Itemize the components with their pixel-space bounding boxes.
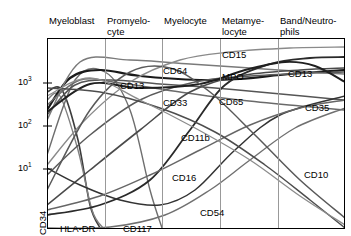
tick-exponent: 2	[28, 118, 32, 125]
stage-header-band_neutrophil: Band/Neutro- phils	[280, 16, 337, 37]
marker-label-cd54: CD54	[200, 207, 224, 218]
marker-label-cd64: CD64	[163, 65, 187, 76]
marker-label-cd11b: CD11b	[181, 132, 210, 143]
stage-header-myeloblast: Myeloblast	[49, 16, 94, 27]
marker-label-cd13: CD13	[288, 68, 312, 79]
y-tick-label-1000: 103	[18, 77, 32, 87]
tick-mantissa: 10	[18, 120, 28, 130]
stage-header-promyelocyte: Promyelo- cyte	[107, 16, 150, 37]
curve-cd54	[47, 96, 345, 205]
antigen-expression-figure: MyeloblastPromyelo- cyteMyelocyteMetamye…	[0, 0, 351, 236]
stage-header-myelocyte: Myelocyte	[164, 16, 207, 27]
marker-label-hla-dr: HLA-DR	[60, 223, 95, 234]
tick-mantissa: 10	[18, 77, 28, 87]
marker-label-cd15: CD15	[222, 49, 246, 60]
marker-label-mpo: MPO	[222, 71, 244, 82]
marker-label-cd65: CD65	[219, 96, 243, 107]
y-tick-label-100: 102	[18, 120, 32, 130]
marker-label-cd117: CD117	[123, 223, 152, 234]
stage-header-metamyelocyte: Metamye- locyte	[222, 16, 264, 37]
marker-label-cd13: CD13	[120, 80, 144, 91]
tick-exponent: 1	[28, 161, 32, 168]
tick-mantissa: 10	[18, 163, 28, 173]
marker-label-cd34: CD34	[37, 211, 48, 235]
marker-label-cd35: CD35	[305, 102, 329, 113]
y-tick-label-10: 101	[18, 163, 32, 173]
marker-label-cd16: CD16	[172, 172, 196, 183]
curve-cd35	[47, 100, 345, 210]
tick-exponent: 3	[28, 75, 32, 82]
marker-label-cd33: CD33	[163, 97, 187, 108]
marker-label-cd10: CD10	[304, 169, 328, 180]
curve-cd65	[47, 72, 345, 175]
